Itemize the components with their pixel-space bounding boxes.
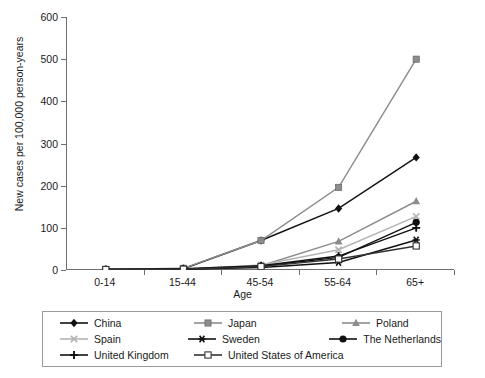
legend-marker-icon (341, 317, 371, 329)
y-tick-mark (61, 17, 66, 18)
y-axis-title: New cases per 100,000 person-years (13, 4, 25, 244)
series-canvas (67, 17, 455, 270)
y-tick-mark (61, 186, 66, 187)
x-tick-mark (221, 270, 222, 275)
x-tick-mark (144, 270, 145, 275)
legend-swatch-asterisk (187, 333, 217, 345)
legend-row: United KingdomUnited States of America (43, 347, 441, 363)
data-point-square-filled (258, 237, 264, 243)
legend-swatch-x-cross (59, 333, 89, 345)
legend-item-china[interactable]: China (43, 317, 193, 329)
y-tick-label: 400 (24, 96, 58, 106)
y-tick-mark (61, 144, 66, 145)
data-point-diamond-filled (70, 319, 77, 327)
legend-swatch-plus (59, 349, 89, 361)
legend-row: ChinaJapanPoland (43, 315, 441, 331)
data-point-diamond-filled (413, 153, 420, 161)
legend-swatch-triangle-filled (341, 317, 371, 329)
legend-item-poland[interactable]: Poland (341, 317, 409, 329)
data-point-square-open (258, 264, 264, 270)
series-poland (102, 197, 420, 270)
legend: ChinaJapanPolandSpainSwedenThe Netherlan… (42, 311, 442, 367)
legend-marker-icon (187, 333, 217, 345)
legend-label: China (94, 317, 121, 329)
data-point-plus (412, 224, 420, 232)
data-point-x-cross (413, 213, 419, 219)
legend-marker-icon (59, 333, 89, 345)
x-axis-title: Age (0, 288, 485, 300)
legend-item-spain[interactable]: Spain (43, 333, 187, 345)
data-point-square-open (103, 266, 109, 270)
x-tick-label: 55-64 (303, 276, 373, 288)
data-point-triangle-filled (335, 237, 343, 244)
chart-figure: 0100200300400500600 0-1415-4445-5455-646… (0, 0, 485, 378)
legend-swatch-diamond-filled (59, 317, 89, 329)
legend-marker-icon (193, 349, 223, 361)
series-line (106, 201, 416, 269)
data-point-square-open (413, 243, 419, 249)
y-tick-label: 0 (24, 265, 58, 275)
legend-label: Sweden (222, 333, 260, 345)
legend-label: Japan (228, 317, 257, 329)
legend-label: United States of America (228, 349, 344, 361)
legend-item-united-kingdom[interactable]: United Kingdom (43, 349, 193, 361)
legend-row: SpainSwedenThe Netherlands (43, 331, 441, 347)
y-tick-mark (61, 270, 66, 271)
x-tick-label: 65+ (380, 276, 450, 288)
legend-marker-icon (59, 317, 89, 329)
legend-item-sweden[interactable]: Sweden (187, 333, 328, 345)
legend-marker-icon (59, 349, 89, 361)
x-tick-mark (299, 270, 300, 275)
legend-item-united-states-of-america[interactable]: United States of America (193, 349, 341, 361)
y-tick-label: 100 (24, 223, 58, 233)
data-point-square-open (205, 352, 211, 358)
legend-item-the-netherlands[interactable]: The Netherlands (328, 333, 441, 345)
data-point-triangle-filled (412, 197, 420, 204)
data-point-square-open (336, 256, 342, 262)
x-tick-mark (376, 270, 377, 275)
y-tick-label: 500 (24, 54, 58, 64)
legend-label: Poland (376, 317, 409, 329)
chart-plot-container: 0100200300400500600 0-1415-4445-5455-646… (0, 0, 485, 300)
legend-swatch-square-filled (193, 317, 223, 329)
legend-swatch-circle-filled (328, 333, 358, 345)
data-point-square-filled (336, 184, 342, 190)
legend-item-japan[interactable]: Japan (193, 317, 341, 329)
data-point-square-filled (413, 56, 419, 62)
x-tick-mark (454, 270, 455, 275)
data-point-diamond-filled (335, 204, 342, 212)
y-tick-label: 600 (24, 12, 58, 22)
legend-label: United Kingdom (94, 349, 169, 361)
legend-marker-icon (328, 333, 358, 345)
y-tick-label: 200 (24, 181, 58, 191)
data-point-plus (70, 351, 78, 359)
data-point-square-filled (205, 320, 211, 326)
data-point-asterisk (198, 336, 205, 343)
y-tick-mark (61, 101, 66, 102)
plot-frame (66, 17, 454, 270)
series-united-states-of-america (103, 243, 420, 270)
series-japan (103, 56, 420, 270)
x-tick-label: 45-54 (225, 276, 295, 288)
legend-swatch-square-open (193, 349, 223, 361)
y-tick-mark (61, 228, 66, 229)
legend-marker-icon (193, 317, 223, 329)
x-tick-label: 0-14 (70, 276, 140, 288)
x-tick-label: 15-44 (147, 276, 217, 288)
legend-label: Spain (94, 333, 121, 345)
data-point-circle-filled (340, 335, 347, 342)
data-point-square-open (180, 266, 186, 270)
y-tick-label: 300 (24, 139, 58, 149)
y-tick-mark (61, 59, 66, 60)
legend-label: The Netherlands (363, 333, 441, 345)
